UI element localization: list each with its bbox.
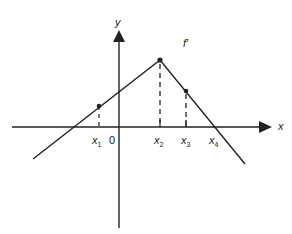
tick-label-x4: x4 <box>209 135 218 148</box>
function-label: f′ <box>183 38 188 49</box>
point-x3 <box>184 89 189 94</box>
y-axis-label: y <box>115 17 121 28</box>
f-prime-curve <box>33 60 245 164</box>
point-max <box>157 57 162 62</box>
tick-label-x1: x1 <box>92 135 101 148</box>
f-prime-graph <box>0 0 292 234</box>
tick-label-x3: x3 <box>181 135 190 148</box>
x-axis-label: x <box>278 121 284 132</box>
point-x1 <box>97 104 102 109</box>
y-axis-arrow-icon <box>113 30 125 42</box>
x-axis-arrow-icon <box>259 121 272 133</box>
tick-label-x2: x2 <box>154 135 163 148</box>
origin-label: 0 <box>109 135 115 146</box>
